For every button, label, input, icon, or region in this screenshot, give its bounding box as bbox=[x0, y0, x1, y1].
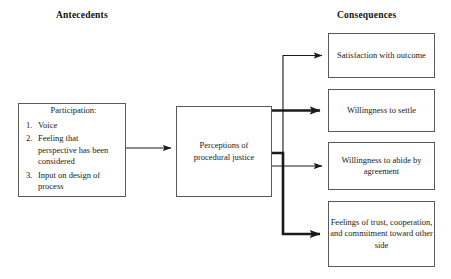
participation-title: Participation: bbox=[26, 105, 119, 116]
node-willingness-to-settle: Willingness to settle bbox=[328, 89, 435, 132]
node-perceptions: Perceptions of procedural justice bbox=[176, 106, 272, 197]
list-item: 2. Feeling that perspective has been con… bbox=[26, 133, 119, 167]
list-item: 1. Voice bbox=[26, 120, 119, 131]
list-item-number: 1. bbox=[26, 120, 38, 131]
list-item-number: 3. bbox=[26, 170, 38, 192]
node-participation: Participation: 1. Voice 2. Feeling that … bbox=[18, 103, 126, 197]
list-item-label: Feeling that perspective has been consid… bbox=[38, 133, 119, 167]
list-item-label: Input on design of process bbox=[38, 170, 119, 192]
list-item-number: 2. bbox=[26, 133, 38, 167]
participation-list: 1. Voice 2. Feeling that perspective has… bbox=[26, 120, 119, 192]
list-item-label: Voice bbox=[38, 120, 119, 131]
node-feelings-of-trust: Feelings of trust, cooperation, and comm… bbox=[328, 201, 435, 267]
node-satisfaction-with-outcome: Satisfaction with outcome bbox=[328, 33, 435, 78]
diagram-canvas: Antecedents Consequences Participation: … bbox=[0, 0, 451, 279]
connector-perceptions-to-trust bbox=[272, 153, 320, 234]
list-item: 3. Input on design of process bbox=[26, 170, 119, 192]
connector-perceptions-to-satisfaction bbox=[272, 56, 322, 154]
node-willingness-to-abide-by-agreement: Willingness to abide by agreement bbox=[328, 142, 435, 190]
